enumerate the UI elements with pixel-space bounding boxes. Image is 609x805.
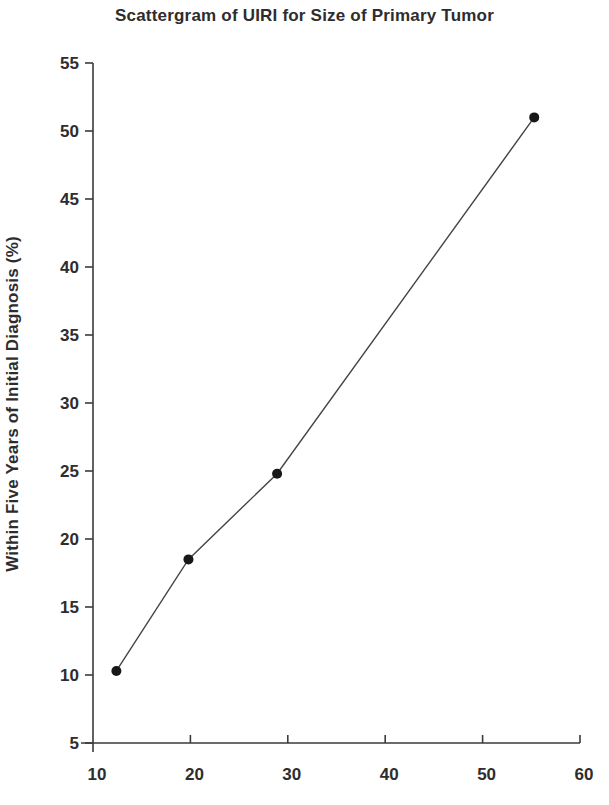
chart-title: Scattergram of UIRI for Size of Primary … xyxy=(0,6,609,26)
x-tick-label: 50 xyxy=(477,765,496,784)
y-axis-label: Within Five Years of Initial Diagnosis (… xyxy=(3,236,23,572)
x-tick-label: 30 xyxy=(282,765,301,784)
y-tick-label: 20 xyxy=(60,530,79,549)
y-tick-label: 15 xyxy=(60,598,79,617)
x-tick-label: 40 xyxy=(380,765,399,784)
data-line xyxy=(116,117,534,671)
x-tick-label: 20 xyxy=(185,765,204,784)
data-point xyxy=(529,112,539,122)
data-point xyxy=(111,666,121,676)
y-tick-label: 5 xyxy=(70,734,79,753)
y-tick-label: 35 xyxy=(60,326,79,345)
y-tick-label: 10 xyxy=(60,666,79,685)
scattergram-figure: Scattergram of UIRI for Size of Primary … xyxy=(0,0,609,805)
x-tick-label: 60 xyxy=(575,765,594,784)
y-tick-label: 55 xyxy=(60,54,79,73)
y-tick-label: 40 xyxy=(60,258,79,277)
y-tick-label: 45 xyxy=(60,190,79,209)
plot-area: 510152025303540455055102030405060 xyxy=(0,0,609,805)
y-tick-label: 30 xyxy=(60,394,79,413)
data-point xyxy=(272,469,282,479)
x-tick-label: 10 xyxy=(88,765,107,784)
data-point xyxy=(183,554,193,564)
y-tick-label: 50 xyxy=(60,122,79,141)
y-tick-label: 25 xyxy=(60,462,79,481)
